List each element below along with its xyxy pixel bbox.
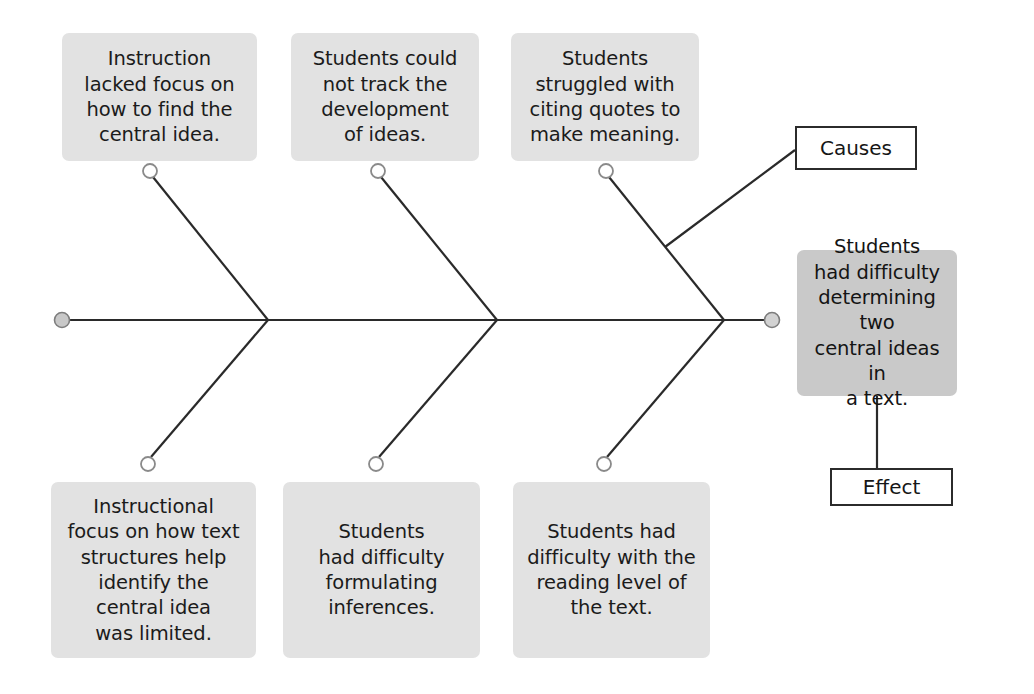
node-lower-3	[597, 457, 611, 471]
cause-box-top-1-text: Instruction lacked focus on how to find …	[84, 46, 234, 147]
cause-box-top-3-text: Students struggled with citing quotes to…	[530, 46, 681, 147]
cause-box-top-2[interactable]: Students could not track the development…	[291, 33, 479, 161]
effect-statement-box[interactable]: Students had difficulty determining two …	[797, 250, 957, 396]
bone-upper-1	[153, 177, 268, 320]
effect-statement-text: Students had difficulty determining two …	[805, 234, 949, 411]
cause-box-bottom-1-text: Instructional focus on how text structur…	[68, 494, 240, 646]
node-upper-3	[599, 164, 613, 178]
bone-lower-3	[607, 320, 724, 457]
causes-label-box[interactable]: Causes	[795, 126, 917, 170]
bone-upper-3	[609, 177, 724, 320]
bone-lower-1	[151, 320, 268, 457]
causes-label-text: Causes	[820, 136, 892, 160]
causes-leader-line	[665, 150, 795, 247]
cause-box-bottom-3-text: Students had difficulty with the reading…	[527, 519, 696, 620]
node-lower-2	[369, 457, 383, 471]
node-upper-1	[143, 164, 157, 178]
effect-label-text: Effect	[863, 475, 921, 499]
cause-box-bottom-2-text: Students had difficulty formulating infe…	[318, 519, 444, 620]
cause-box-top-2-text: Students could not track the development…	[313, 46, 458, 147]
node-upper-2	[371, 164, 385, 178]
spine-end-node	[765, 313, 780, 328]
cause-box-top-3[interactable]: Students struggled with citing quotes to…	[511, 33, 699, 161]
fishbone-diagram: Instruction lacked focus on how to find …	[0, 0, 1034, 694]
node-lower-1	[141, 457, 155, 471]
spine-start-node	[55, 313, 70, 328]
cause-box-bottom-1[interactable]: Instructional focus on how text structur…	[51, 482, 256, 658]
bone-upper-2	[381, 177, 497, 320]
cause-box-bottom-2[interactable]: Students had difficulty formulating infe…	[283, 482, 480, 658]
cause-box-bottom-3[interactable]: Students had difficulty with the reading…	[513, 482, 710, 658]
effect-label-box[interactable]: Effect	[830, 468, 953, 506]
cause-box-top-1[interactable]: Instruction lacked focus on how to find …	[62, 33, 257, 161]
bone-lower-2	[379, 320, 497, 457]
